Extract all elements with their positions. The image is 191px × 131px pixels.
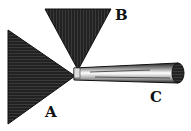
label-c: C: [150, 88, 162, 106]
label-b: B: [115, 6, 128, 24]
triangle-b: [45, 9, 111, 70]
rod-c: [74, 63, 178, 83]
label-a: A: [44, 103, 57, 121]
rod-end: [172, 63, 184, 83]
diagram-canvas: B A C: [0, 0, 191, 131]
junction-point: [74, 68, 80, 78]
